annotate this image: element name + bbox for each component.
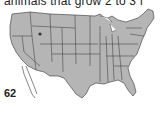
us-map xyxy=(0,6,161,106)
page-number: 62 xyxy=(4,87,16,99)
